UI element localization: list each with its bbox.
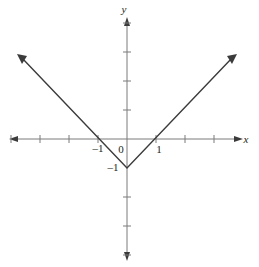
x-axis-right-arrowhead xyxy=(234,136,243,142)
origin-label: 0 xyxy=(118,143,124,155)
coordinate-plane-svg: x y –1 0 1 –1 xyxy=(0,0,259,267)
y-axis-top-arrowhead xyxy=(124,17,130,26)
y-axis-label: y xyxy=(121,3,127,15)
x-axis-left-arrowhead xyxy=(9,136,18,142)
x-axis xyxy=(9,135,243,143)
y-label-minus-one: –1 xyxy=(107,161,119,173)
x-label-minus-one: –1 xyxy=(92,142,104,154)
x-axis-label: x xyxy=(243,133,249,145)
y-axis-bottom-arrowhead xyxy=(124,252,130,261)
x-label-plus-one: 1 xyxy=(156,143,162,155)
graph-figure: x y –1 0 1 –1 xyxy=(0,0,259,267)
